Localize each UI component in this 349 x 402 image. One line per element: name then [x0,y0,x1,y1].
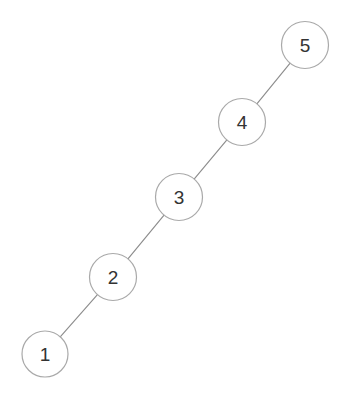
graph-node-5[interactable]: 5 [282,22,329,69]
graph-node-label-3: 3 [174,187,185,208]
graph-node-4[interactable]: 4 [219,99,266,146]
graph-edge-3-4 [194,140,227,179]
graph-edge-4-5 [257,63,290,104]
graph-node-label-5: 5 [300,35,311,56]
graph-svg: 12345 [0,0,349,402]
graph-node-label-4: 4 [237,112,248,133]
diagram-canvas: 12345 [0,0,349,402]
graph-edge-2-3 [128,215,164,259]
graph-node-1[interactable]: 1 [22,331,68,377]
graph-node-2[interactable]: 2 [90,254,137,301]
graph-node-label-1: 1 [40,344,51,365]
node-layer: 12345 [22,22,329,378]
graph-node-label-2: 2 [108,267,119,288]
graph-edge-1-2 [60,295,97,337]
graph-node-3[interactable]: 3 [156,174,203,221]
